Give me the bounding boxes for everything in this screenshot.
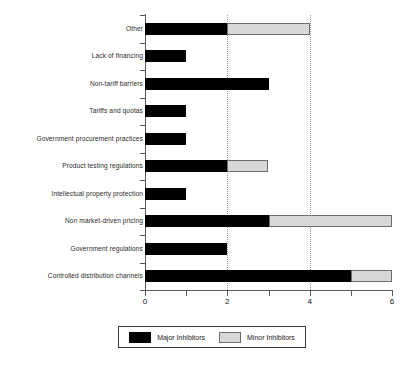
x-tick-label: 4 — [300, 297, 320, 307]
bar-segment — [145, 78, 269, 90]
category-label: Government regulations — [3, 245, 143, 253]
legend-swatch-major — [129, 332, 151, 343]
x-tick-5 — [351, 291, 352, 296]
x-tick-0 — [145, 291, 146, 296]
x-tick-2 — [227, 291, 228, 296]
x-tick-label: 6 — [382, 297, 402, 307]
legend-entry-minor: Minor Inhibitors — [219, 332, 295, 343]
bar-segment — [145, 215, 269, 227]
bar-segment — [145, 133, 186, 145]
legend-label-major: Major Inhibitors — [157, 333, 205, 342]
figure: 0 2 4 6 Other Lack of financing Non-tari… — [0, 0, 413, 372]
bar-segment — [145, 188, 186, 200]
legend-label-minor: Minor Inhibitors — [247, 333, 295, 342]
category-label: Government procurement practices — [3, 135, 143, 143]
bar-segment — [227, 23, 309, 35]
bar-segment — [351, 270, 392, 282]
x-tick-3 — [269, 291, 270, 296]
category-label: Tariffs and quotas — [3, 107, 143, 115]
category-label: Non-tariff barriers — [3, 80, 143, 88]
legend-swatch-minor — [219, 332, 241, 343]
bar-segment — [145, 160, 227, 172]
category-label: Controlled distribution channels — [3, 272, 143, 280]
bar-segment — [145, 243, 227, 255]
category-label: Product testing regulations — [3, 162, 143, 170]
category-labels: Other Lack of financing Non-tariff barri… — [0, 0, 143, 372]
category-label: Non market-driven pricing — [3, 217, 143, 225]
x-tick-4 — [310, 291, 311, 296]
x-tick-6 — [392, 291, 393, 296]
bar-segment — [145, 105, 186, 117]
x-tick-1 — [186, 291, 187, 296]
bar-segment — [269, 215, 393, 227]
legend: Major Inhibitors Minor Inhibitors — [118, 326, 306, 348]
category-label: Other — [3, 25, 143, 33]
bar-segment — [145, 23, 227, 35]
bar-segment — [145, 50, 186, 62]
x-tick-label: 2 — [217, 297, 237, 307]
category-label: Intellectual property protection — [3, 190, 143, 198]
bars-layer — [145, 15, 392, 290]
category-label: Lack of financing — [3, 52, 143, 60]
bar-segment — [227, 160, 268, 172]
bar-segment — [145, 270, 351, 282]
legend-entry-major: Major Inhibitors — [129, 332, 205, 343]
